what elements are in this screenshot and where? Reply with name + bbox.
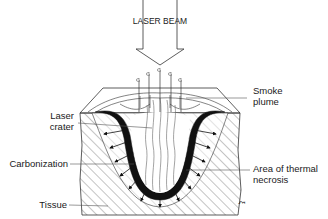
smoke-plume-label-line2: plume	[253, 96, 283, 107]
smoke-plume-label-line1: Smoke	[253, 85, 283, 96]
smoke-plume-label: Smoke plume	[253, 85, 283, 107]
laser-crater-label-line2: crater	[30, 121, 74, 132]
thermal-necrosis-label-line2: necrosis	[253, 174, 318, 185]
laser-beam-label: LASER BEAM	[132, 16, 188, 27]
figure-mark: ξ	[237, 201, 248, 204]
tissue-label: Tissue	[20, 199, 67, 210]
carbonization-label: Carbonization	[2, 158, 68, 169]
thermal-necrosis-label: Area of thermal necrosis	[253, 163, 318, 185]
laser-crater-label: Laser crater	[30, 110, 74, 132]
laser-crater-label-line1: Laser	[30, 110, 74, 121]
laser-tissue-diagram: LASER BEAM Smoke plume Laser crater Carb…	[0, 0, 328, 219]
thermal-necrosis-label-line1: Area of thermal	[253, 163, 318, 174]
laser-beam-arrow	[136, 0, 184, 65]
